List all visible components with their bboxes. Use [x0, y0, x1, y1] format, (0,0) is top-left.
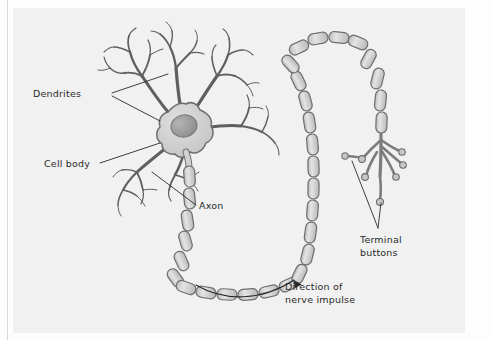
- label-direction-line2: nerve impulse: [285, 294, 355, 305]
- dendrite-upper-right: [196, 29, 259, 108]
- dendrite-lower-left: [113, 148, 166, 216]
- label-dendrites: Dendrites: [33, 88, 81, 99]
- label-direction-line1: Direction of: [285, 281, 343, 292]
- label-cell-body: Cell body: [44, 158, 90, 169]
- dendrite-top-center: [151, 22, 204, 104]
- terminal-branch-5: [366, 152, 377, 176]
- label-terminal-buttons-line2: buttons: [360, 247, 398, 258]
- figure-page: Dendrites Cell body Axon Terminal button…: [0, 0, 490, 340]
- leader-terminal-1: [352, 161, 378, 228]
- terminal-branch-4: [381, 150, 395, 176]
- terminal-branch-1: [363, 140, 381, 158]
- label-axon: Axon: [199, 200, 223, 211]
- leader-terminal-2: [378, 203, 381, 228]
- leader-dendrites-lower: [112, 96, 160, 121]
- dendrite-upper-left: [98, 28, 168, 112]
- neuron-diagram: Dendrites Cell body Axon Terminal button…: [0, 0, 490, 340]
- label-terminal-buttons-line1: Terminal: [359, 234, 402, 245]
- leader-lines: [100, 74, 381, 228]
- leader-dendrites-upper: [112, 74, 168, 93]
- terminal-buttons-group: [342, 134, 407, 206]
- dendrite-right: [206, 95, 279, 155]
- terminal-branch-7: [380, 176, 381, 200]
